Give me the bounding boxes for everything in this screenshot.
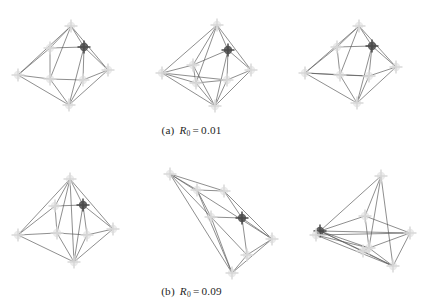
graph-edge bbox=[69, 70, 108, 105]
caption-a-symbol: R bbox=[180, 124, 187, 136]
graph-edge bbox=[242, 218, 272, 239]
graph-edge bbox=[18, 179, 70, 235]
caption-b-subscript: 0 bbox=[187, 289, 191, 298]
caption-a-label: (a) bbox=[162, 124, 175, 136]
graph-edge bbox=[320, 216, 365, 231]
graph-edge bbox=[369, 248, 393, 266]
graph-edge bbox=[193, 50, 228, 65]
plus-cross-marker-icon bbox=[299, 67, 312, 80]
caption-b-value: 0.09 bbox=[201, 285, 221, 297]
plus-cross-marker-icon bbox=[363, 70, 376, 83]
plus-cross-marker-icon bbox=[49, 199, 62, 212]
graph-edge bbox=[224, 191, 272, 239]
caption-a-subscript: 0 bbox=[187, 129, 191, 138]
graph-edge bbox=[69, 80, 83, 105]
graph-edge bbox=[84, 47, 108, 70]
plus-cross-marker-icon bbox=[51, 226, 64, 239]
graph-edges bbox=[18, 26, 108, 105]
plus-cross-marker-icon bbox=[187, 59, 200, 72]
graph-edge bbox=[305, 47, 337, 73]
panel-b-3-svg bbox=[293, 154, 421, 284]
plus-cross-marker-icon bbox=[211, 19, 224, 32]
graph-edge bbox=[369, 67, 396, 76]
graph-edge bbox=[369, 176, 381, 248]
panel-a-2-svg bbox=[143, 4, 286, 122]
panel-a-3 bbox=[286, 4, 421, 122]
caption-b-label: (b) bbox=[161, 285, 175, 297]
graph-edge bbox=[381, 176, 393, 266]
panel-a-2 bbox=[143, 4, 286, 122]
graph-edge bbox=[70, 179, 113, 229]
panel-group-b bbox=[0, 154, 383, 284]
graph-edge bbox=[320, 231, 410, 233]
caption-a-equals: = bbox=[193, 124, 200, 136]
plus-cross-marker-icon bbox=[359, 209, 372, 222]
panel-group-a bbox=[0, 4, 383, 122]
panel-b-1 bbox=[0, 154, 143, 280]
graph-edge bbox=[18, 48, 50, 75]
graph-edge bbox=[50, 26, 71, 79]
graph-edge bbox=[196, 83, 215, 106]
plus-cross-marker-icon bbox=[226, 266, 239, 279]
graph-edges bbox=[305, 26, 396, 103]
graph-edge bbox=[215, 80, 227, 106]
graph-edge bbox=[320, 231, 393, 266]
graph-edge bbox=[320, 176, 381, 231]
graph-nodes bbox=[310, 169, 417, 272]
graph-edge bbox=[340, 26, 359, 75]
plus-cross-marker-icon bbox=[156, 67, 169, 80]
plus-cross-marker-icon bbox=[44, 73, 57, 86]
graph-edge bbox=[83, 205, 113, 229]
graph-edge bbox=[228, 50, 251, 70]
plus-cross-marker-icon bbox=[366, 40, 379, 53]
panel-b-1-svg bbox=[0, 154, 143, 280]
panel-a-1-svg bbox=[0, 4, 143, 122]
graph-edge bbox=[372, 46, 396, 67]
plus-cross-marker-icon bbox=[107, 222, 120, 235]
graph-edge bbox=[74, 229, 113, 262]
graph-edge bbox=[217, 25, 251, 70]
graph-edge bbox=[70, 179, 74, 262]
caption-a: (a)R0=0.01 bbox=[0, 124, 383, 138]
plus-cross-marker-icon bbox=[387, 259, 400, 272]
caption-b-equals: = bbox=[193, 285, 200, 297]
plus-cross-marker-icon bbox=[77, 198, 90, 211]
graph-edge bbox=[50, 79, 69, 105]
figure-row-a: (a)R0=0.01 bbox=[0, 0, 383, 138]
graph-edge bbox=[232, 239, 272, 273]
caption-b: (b)R0=0.09 bbox=[0, 285, 383, 298]
caption-a-value: 0.01 bbox=[201, 124, 221, 136]
graph-edge bbox=[365, 176, 381, 216]
graph-edge bbox=[357, 67, 396, 103]
caption-b-symbol: R bbox=[180, 285, 187, 297]
graph-edge bbox=[215, 70, 251, 106]
graph-edge bbox=[305, 73, 357, 103]
graph-nodes bbox=[164, 167, 279, 279]
graph-edge bbox=[71, 26, 108, 70]
graph-edge bbox=[247, 239, 272, 255]
graph-edge bbox=[340, 75, 357, 103]
plus-cross-marker-icon bbox=[77, 74, 90, 87]
graph-edge bbox=[18, 26, 71, 75]
plus-cross-marker-icon bbox=[404, 226, 417, 239]
panel-b-2-svg bbox=[143, 154, 293, 284]
panel-b-2 bbox=[143, 154, 293, 284]
graph-edge bbox=[316, 233, 410, 235]
plus-cross-marker-icon bbox=[334, 69, 347, 82]
plus-cross-marker-icon bbox=[68, 255, 81, 268]
graph-edges bbox=[18, 179, 113, 262]
panel-a-3-svg bbox=[286, 4, 421, 122]
graph-edge bbox=[316, 235, 393, 266]
graph-edges bbox=[162, 25, 251, 106]
graph-edge bbox=[18, 235, 74, 262]
plus-cross-marker-icon bbox=[81, 228, 94, 241]
graph-edge bbox=[170, 174, 272, 239]
graph-edge bbox=[18, 206, 55, 235]
panel-a-1 bbox=[0, 4, 143, 122]
figure-row-b: (b)R0=0.09 bbox=[0, 138, 383, 298]
panel-b-3 bbox=[293, 154, 421, 284]
